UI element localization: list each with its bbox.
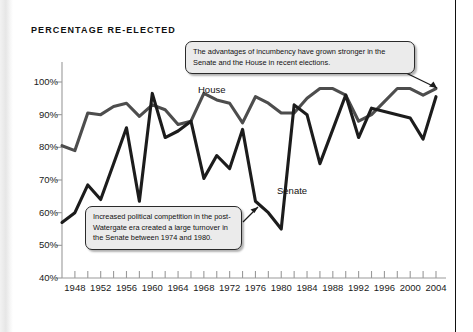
x-axis-ticks	[75, 271, 436, 278]
annotation-callout-bottom: Increased political competition in the p…	[85, 206, 242, 250]
page-border-rule	[455, 0, 456, 332]
y-tick-label: 70%	[20, 174, 58, 185]
y-tick-label: 60%	[20, 207, 58, 218]
y-tick-label: 100%	[20, 76, 58, 87]
series-label-house: House	[198, 84, 225, 95]
y-tick-label: 50%	[20, 239, 58, 250]
y-tick-label: 90%	[20, 109, 58, 120]
series-label-senate: Senate	[277, 185, 307, 196]
series-line-house	[62, 89, 436, 151]
callout-bottom-leader	[243, 207, 258, 222]
callout-top-leader	[404, 72, 437, 88]
y-tick-label: 80%	[20, 141, 58, 152]
x-tick-label: 2004	[420, 282, 452, 293]
y-tick-label: 40%	[20, 272, 58, 283]
figure-page: PERCENTAGE RE-ELECTED 100%90%80%70%60%50…	[0, 0, 473, 332]
annotation-callout-top: The advantages of incumbency have grown …	[185, 41, 415, 74]
